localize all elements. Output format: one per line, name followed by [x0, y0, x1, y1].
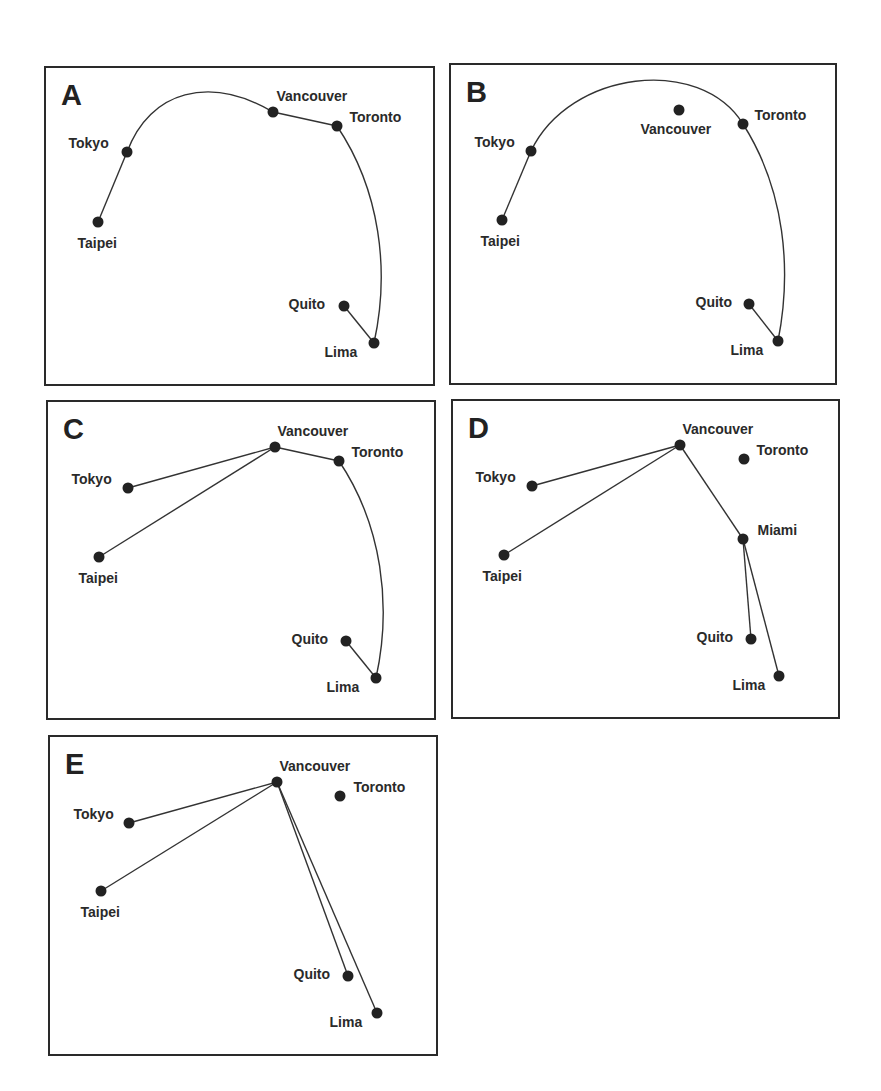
city-label-tokyo: Tokyo — [72, 472, 112, 486]
city-label-toronto: Toronto — [350, 110, 402, 124]
city-label-tokyo: Tokyo — [74, 807, 114, 821]
edge-vancouver-toronto — [275, 447, 339, 461]
node-vancouver — [674, 439, 685, 450]
edge-vancouver-toronto — [273, 112, 337, 126]
edge-quito-lima — [346, 641, 376, 678]
edge-quito-lima — [749, 304, 778, 341]
node-quito — [745, 633, 756, 644]
city-label-taipei: Taipei — [81, 905, 120, 919]
city-label-vancouver: Vancouver — [641, 122, 712, 136]
city-label-tokyo: Tokyo — [476, 470, 516, 484]
city-label-lima: Lima — [325, 345, 358, 359]
panel-b: BTokyoTaipeiVancouverTorontoQuitoLima — [449, 63, 837, 385]
city-label-miami: Miami — [758, 523, 798, 537]
edge-tokyo-vancouver — [128, 447, 275, 488]
city-label-vancouver: Vancouver — [280, 759, 351, 773]
node-tokyo — [123, 817, 134, 828]
city-label-quito: Quito — [292, 632, 329, 646]
city-label-vancouver: Vancouver — [277, 89, 348, 103]
node-lima — [371, 1007, 382, 1018]
edge-taipei-vancouver — [99, 447, 275, 557]
edge-vancouver-quito — [277, 782, 348, 976]
city-label-quito: Quito — [289, 297, 326, 311]
node-tokyo — [121, 146, 132, 157]
node-taipei — [95, 885, 106, 896]
node-vancouver — [267, 106, 278, 117]
node-toronto — [333, 455, 344, 466]
edge-quito-lima — [344, 306, 374, 343]
node-lima — [773, 670, 784, 681]
edge-taipei-tokyo — [98, 152, 127, 222]
city-label-lima: Lima — [330, 1015, 363, 1029]
city-label-taipei: Taipei — [483, 569, 522, 583]
edge-vancouver-miami — [680, 445, 743, 539]
node-vancouver — [269, 441, 280, 452]
node-quito — [338, 300, 349, 311]
node-tokyo — [526, 480, 537, 491]
node-toronto — [738, 453, 749, 464]
node-quito — [743, 298, 754, 309]
node-lima — [370, 672, 381, 683]
edge-tokyo-vancouver — [532, 445, 680, 486]
city-label-toronto: Toronto — [352, 445, 404, 459]
node-toronto — [331, 120, 342, 131]
node-toronto — [737, 118, 748, 129]
city-label-taipei: Taipei — [78, 236, 117, 250]
city-label-quito: Quito — [294, 967, 331, 981]
node-tokyo — [122, 482, 133, 493]
edge-taipei-tokyo — [502, 151, 531, 220]
node-miami — [737, 533, 748, 544]
city-label-lima: Lima — [327, 680, 360, 694]
edge-tokyo-toronto — [531, 80, 743, 151]
node-taipei — [496, 214, 507, 225]
city-label-tokyo: Tokyo — [475, 135, 515, 149]
panel-e: ETokyoTaipeiVancouverTorontoQuitoLima — [48, 735, 438, 1056]
city-label-toronto: Toronto — [354, 780, 406, 794]
node-vancouver — [271, 776, 282, 787]
node-quito — [340, 635, 351, 646]
node-lima — [368, 337, 379, 348]
node-lima — [772, 335, 783, 346]
edge-taipei-vancouver — [504, 445, 680, 555]
city-label-quito: Quito — [697, 630, 734, 644]
panel-a: ATokyoTaipeiVancouverTorontoQuitoLima — [44, 66, 435, 386]
panel-d: DTokyoTaipeiVancouverTorontoMiamiQuitoLi… — [451, 399, 840, 719]
node-toronto — [334, 790, 345, 801]
edge-tokyo-vancouver — [127, 92, 273, 152]
city-label-tokyo: Tokyo — [69, 136, 109, 150]
node-taipei — [498, 549, 509, 560]
edge-taipei-vancouver — [101, 782, 277, 891]
node-taipei — [93, 551, 104, 562]
city-label-vancouver: Vancouver — [278, 424, 349, 438]
city-label-vancouver: Vancouver — [683, 422, 754, 436]
city-label-lima: Lima — [731, 343, 764, 357]
city-label-taipei: Taipei — [79, 571, 118, 585]
city-label-toronto: Toronto — [755, 108, 807, 122]
node-vancouver — [673, 104, 684, 115]
node-taipei — [92, 216, 103, 227]
panel-c: CTokyoTaipeiVancouverTorontoQuitoLima — [46, 400, 436, 720]
edge-tokyo-vancouver — [129, 782, 277, 823]
city-label-taipei: Taipei — [481, 234, 520, 248]
city-label-toronto: Toronto — [757, 443, 809, 457]
node-tokyo — [525, 145, 536, 156]
city-label-lima: Lima — [733, 678, 766, 692]
node-quito — [342, 970, 353, 981]
city-label-quito: Quito — [696, 295, 733, 309]
